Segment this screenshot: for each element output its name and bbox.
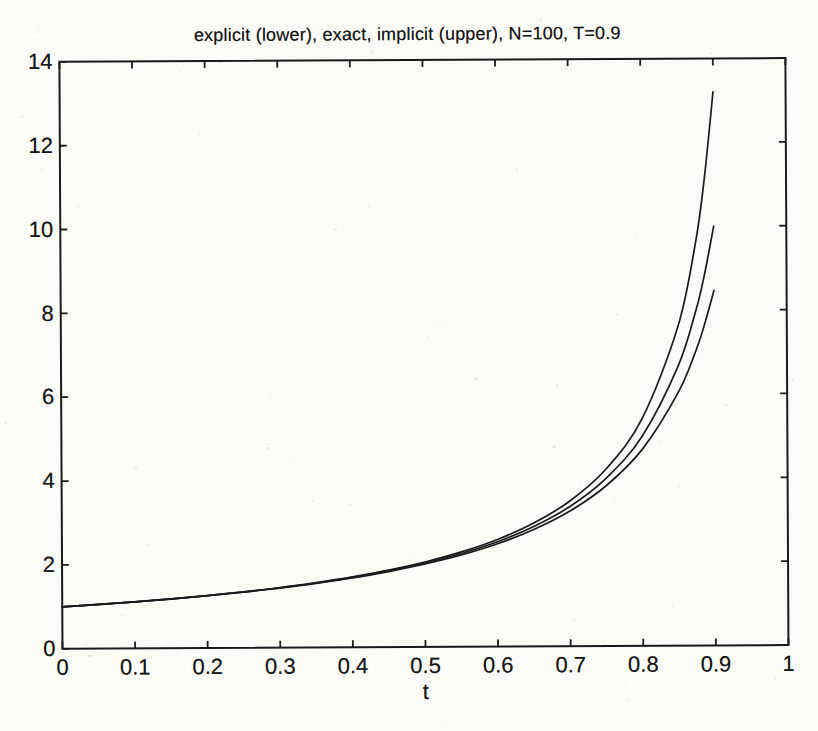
scan-speckle <box>77 205 79 207</box>
scan-speckle <box>553 445 556 448</box>
x-tick-label-0.1: 0.1 <box>99 656 171 678</box>
y-tick-label-12: 12 <box>0 135 53 157</box>
scan-speckle <box>616 313 619 316</box>
scan-speckle <box>678 485 680 487</box>
scan-speckle <box>312 500 314 502</box>
scan-speckle <box>121 614 124 617</box>
scan-speckle <box>580 487 582 489</box>
scan-speckle <box>673 483 675 485</box>
scan-speckle <box>334 228 336 230</box>
scan-speckle <box>277 474 278 475</box>
x-tick-label-0.9: 0.9 <box>680 653 752 675</box>
x-tick-label-0.2: 0.2 <box>172 656 244 678</box>
scan-speckle <box>397 305 398 306</box>
scan-speckle <box>539 18 542 21</box>
scan-speckle <box>291 459 293 461</box>
curve-exact-solution <box>60 226 715 607</box>
curve-implicit-euler <box>60 92 716 607</box>
x-tick-label-1: 1 <box>753 653 818 675</box>
scan-speckle <box>4 422 6 424</box>
scan-speckle <box>614 500 616 502</box>
scan-speckle <box>266 447 269 450</box>
scan-speckle <box>526 629 528 631</box>
scan-speckle <box>41 168 43 170</box>
scan-speckle <box>371 51 374 54</box>
scan-speckle <box>671 604 674 607</box>
x-tick-label-0.3: 0.3 <box>244 655 316 677</box>
scan-speckle <box>559 96 560 97</box>
scan-speckle <box>714 90 717 93</box>
y-tick-label-8: 8 <box>0 302 54 324</box>
scan-speckle <box>251 121 252 122</box>
scan-speckle <box>413 559 415 561</box>
scan-speckle <box>516 169 519 172</box>
scan-speckle <box>625 698 628 701</box>
scanned-figure-page: explicit (lower), exact, implicit (upper… <box>0 0 818 731</box>
chart-title: explicit (lower), exact, implicit (upper… <box>0 22 816 47</box>
scan-speckle <box>445 722 447 724</box>
scan-speckle <box>710 52 713 55</box>
scan-speckle <box>59 23 60 24</box>
x-tick-label-0.7: 0.7 <box>535 654 607 676</box>
scan-speckle <box>627 191 628 192</box>
curve-explicit-euler <box>61 290 716 607</box>
x-axis-label: t <box>390 679 462 705</box>
scan-speckle <box>657 441 659 443</box>
plot-canvas <box>0 0 818 731</box>
y-tick-label-6: 6 <box>0 386 54 408</box>
y-tick-label-14: 14 <box>0 51 52 73</box>
scan-speckle <box>322 293 323 294</box>
scan-speckle <box>198 593 199 594</box>
scan-speckle <box>427 335 429 337</box>
scan-speckle <box>578 642 579 643</box>
scan-speckle <box>725 403 727 405</box>
scan-speckle <box>689 211 690 212</box>
scan-speckle <box>792 379 795 382</box>
x-tick-label-0.6: 0.6 <box>462 654 534 676</box>
scan-speckle <box>573 619 576 622</box>
scan-speckle <box>179 71 181 73</box>
scan-speckle <box>478 433 479 434</box>
scan-speckle <box>367 205 370 208</box>
scan-speckle <box>198 134 200 136</box>
y-tick-label-10: 10 <box>0 219 53 241</box>
scan-speckle <box>634 231 636 233</box>
scan-speckle <box>270 394 272 396</box>
scan-speckle <box>134 467 137 470</box>
x-tick-label-0: 0 <box>27 657 99 679</box>
scan-speckle <box>577 369 578 370</box>
scan-speckle <box>438 326 441 329</box>
x-tick-label-0.4: 0.4 <box>317 655 389 677</box>
scan-speckle <box>154 515 155 516</box>
matlab-figure: explicit (lower), exact, implicit (upper… <box>0 0 818 731</box>
scan-speckle <box>774 677 776 679</box>
axes-box <box>59 58 788 649</box>
scan-speckle <box>556 384 559 387</box>
scan-speckle <box>474 377 477 380</box>
y-tick-label-4: 4 <box>1 470 55 492</box>
scan-speckle <box>624 681 625 682</box>
scan-speckle <box>745 285 746 286</box>
scan-speckle <box>148 543 151 546</box>
scan-speckle <box>672 432 673 433</box>
scan-speckle <box>349 503 352 506</box>
x-tick-label-0.5: 0.5 <box>390 655 462 677</box>
scan-speckle <box>21 115 24 118</box>
x-tick-label-0.8: 0.8 <box>607 654 679 676</box>
y-tick-label-2: 2 <box>1 554 55 576</box>
